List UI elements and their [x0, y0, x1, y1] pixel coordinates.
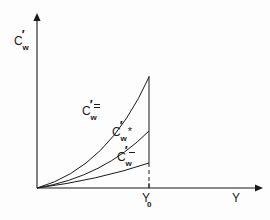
curve-upper-label-prime: ′: [90, 98, 93, 112]
curve-upper-label-sub: w: [91, 113, 97, 122]
x-axis-label: Y: [232, 192, 240, 204]
curve-label-upper: C′w: [82, 100, 100, 120]
y-axis-label: C′w: [14, 30, 32, 50]
x-axis-label-text: Y: [232, 191, 240, 205]
y0-label-sub: 0: [147, 200, 151, 209]
curve-middle-label-prime: ′: [120, 119, 123, 133]
curve-label-middle: C′w*: [112, 121, 134, 141]
x-axis-arrowhead: [255, 184, 263, 191]
y-axis-arrowhead: [33, 13, 40, 21]
y-axis-label-prime: ′: [22, 28, 25, 42]
curve-middle-label-sub: w: [121, 134, 127, 143]
curve-middle-label-star: *: [128, 125, 132, 137]
curve-label-lower: C′w: [117, 146, 135, 166]
curve-lower-label-sub: w: [126, 159, 132, 168]
curve-lower-label-overbar: w: [129, 152, 135, 166]
figure-canvas: C′w C′w C′w* C′w Y0 Y: [0, 0, 270, 220]
y-axis-label-sub: w: [23, 43, 29, 52]
plot-drawing: [0, 0, 270, 220]
y0-tick-label: Y0: [142, 192, 154, 207]
curve-upper-label-overbar: w: [94, 106, 100, 120]
curve-lower-label-prime: ′: [125, 144, 128, 158]
